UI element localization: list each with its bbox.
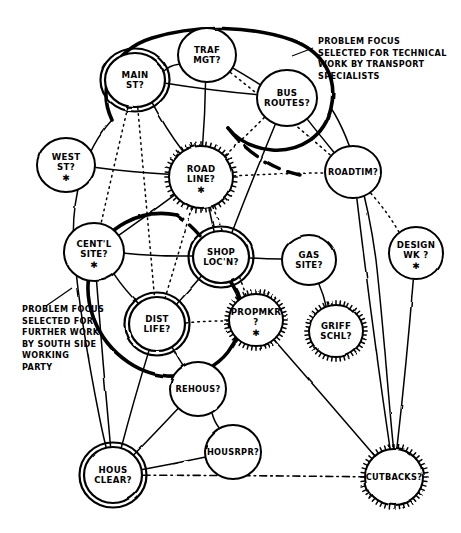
node-layer: MAINST?TRAFMGT?BUSROUTES?WESTST?✱ROADLIN… (37, 28, 443, 509)
link-main-st-to-centl-site (101, 107, 128, 223)
node-label: LIFE? (144, 324, 171, 334)
link-bus-routes-to-road-line (225, 118, 264, 156)
diagram-canvas: MAINST?TRAFMGT?BUSROUTES?WESTST?✱ROADLIN… (0, 0, 461, 533)
node-housrpr[interactable]: HOUSRPR? (205, 425, 261, 479)
node-label: DIST (145, 314, 169, 324)
node-label: MGT? (193, 55, 221, 65)
node-label: BUS (277, 88, 298, 98)
node-label: CLEAR? (94, 475, 132, 485)
node-label: SCHL? (320, 331, 352, 341)
link-shop-locn-to-gas-site (250, 258, 281, 259)
annotation-line: BY SOUTH SIDE (22, 339, 96, 349)
node-label: WK ? (403, 250, 428, 260)
node-label: LINE? (187, 174, 215, 184)
node-label: PROPMKR (231, 307, 282, 317)
link-traf-mgt-to-bus-routes (233, 68, 259, 84)
leader-line-transport (292, 48, 313, 56)
node-label: SITE? (295, 260, 323, 270)
node-star-marker: ✱ (197, 185, 205, 195)
link-roadtim-to-design-wk (371, 193, 399, 231)
node-cutbacks[interactable]: CUTBACKS? (361, 445, 427, 509)
node-bus-routes[interactable]: BUSROUTES? (257, 70, 317, 126)
node-label: LOC'N? (203, 257, 238, 267)
link-centl-site-to-dist-life (114, 275, 137, 303)
link-rehous-to-hous-clear (134, 409, 178, 455)
node-griff-schl[interactable]: GRIFFSCHL? (305, 301, 367, 361)
annotation-line: PARTY (22, 362, 52, 372)
node-label: ST? (126, 80, 144, 90)
node-label: MAIN (122, 70, 149, 80)
node-gas-site[interactable]: GASSITE? (282, 235, 336, 285)
node-star-marker: ✱ (62, 173, 70, 183)
link-main-st-to-dist-life (138, 108, 155, 296)
node-label: ? (253, 317, 258, 327)
node-main-st[interactable]: MAINST? (101, 49, 170, 112)
node-label: HOUSRPR? (207, 447, 259, 457)
annotation-line: SELECTED FOR (22, 316, 94, 326)
node-label: ROADTIM? (328, 167, 378, 177)
link-centl-site-to-shop-locn (125, 253, 192, 256)
link-road-line-to-dist-life (165, 208, 191, 298)
node-shop-locn[interactable]: SHOPLOC'N? (189, 227, 254, 288)
annotation-line: WORK BY TRANSPORT (318, 59, 424, 69)
link-hous-clear-to-cutbacks (143, 475, 364, 477)
node-label: SITE? (80, 249, 108, 259)
node-label: TRAF (194, 45, 220, 55)
network-diagram-svg: MAINST?TRAFMGT?BUSROUTES?WESTST?✱ROADLIN… (0, 0, 461, 533)
annotation-line: PROBLEM FOCUS (318, 36, 400, 46)
node-label: GAS (299, 250, 320, 260)
link-main-st-to-bus-routes (166, 83, 256, 94)
annotation-line: WORKING (22, 350, 69, 360)
node-label: REHOUS? (175, 384, 220, 394)
link-gas-site-to-griff-schl (319, 284, 326, 306)
link-design-wk-to-cutbacks (397, 280, 413, 448)
link-traf-mgt-to-road-line (203, 83, 206, 145)
annotation-line: FURTHER WORK (22, 327, 100, 337)
node-label: ROAD (187, 164, 216, 174)
annotation-line: PROBLEM FOCUS (22, 304, 104, 314)
node-road-line[interactable]: ROADLINE?✱ (165, 142, 237, 212)
link-main-st-to-road-line (152, 103, 182, 150)
node-label: WEST (52, 152, 81, 162)
link-rehous-to-housrpr (212, 414, 219, 428)
link-dist-life-to-propmkr (186, 321, 228, 323)
node-traf-mgt[interactable]: TRAFMGT? (178, 28, 236, 82)
link-layer (96, 64, 413, 477)
node-dist-life[interactable]: DISTLIFE? (125, 293, 190, 356)
link-housrpr-to-hous-clear (143, 457, 205, 469)
node-centl-site[interactable]: CENT'LSITE?✱ (64, 223, 124, 281)
node-label: ST? (57, 162, 75, 172)
node-west-st[interactable]: WESTST?✱ (37, 138, 95, 192)
annotation-technical-work-note: PROBLEM FOCUSSELECTED FOR TECHNICALWORK … (318, 36, 447, 81)
node-hous-clear[interactable]: HOUSCLEAR? (80, 443, 147, 508)
node-label: DESIGN (397, 240, 435, 250)
link-shop-locn-to-dist-life (177, 277, 201, 304)
node-label: ROUTES? (264, 98, 310, 108)
node-star-marker: ✱ (252, 328, 260, 338)
node-label: SHOP (207, 247, 235, 257)
link-propmkr-to-cutbacks (275, 340, 375, 455)
node-star-marker: ✱ (412, 261, 420, 271)
link-west-st-to-road-line (96, 168, 168, 175)
annotation-line: SPECIALISTS (318, 71, 380, 81)
node-star-marker: ✱ (90, 260, 98, 270)
link-road-line-to-roadtim (234, 173, 324, 176)
node-label: CUTBACKS? (366, 472, 423, 482)
node-roadtim[interactable]: ROADTIM? (325, 146, 381, 198)
node-rehous[interactable]: REHOUS? (170, 362, 226, 416)
node-label: HOUS (99, 465, 128, 475)
node-label: CENT'L (76, 239, 111, 249)
node-label: GRIFF (321, 321, 351, 331)
node-design-wk[interactable]: DESIGNWK ?✱ (389, 227, 443, 279)
annotation-line: SELECTED FOR TECHNICAL (318, 48, 447, 58)
